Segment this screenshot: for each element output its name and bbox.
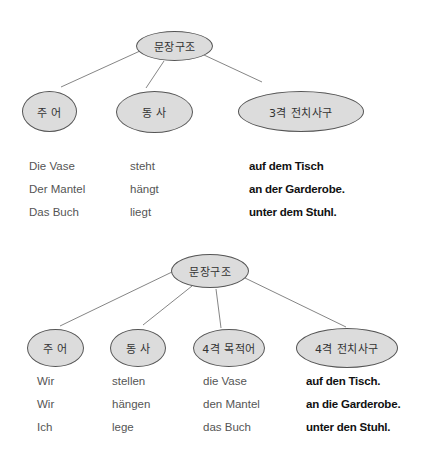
node-subject-2: 주 어 (27, 329, 84, 367)
d1-verb-3: liegt (130, 206, 151, 218)
d2-subject-3: Ich (37, 421, 52, 433)
d2-prep-1: auf den Tisch. (306, 375, 380, 387)
d2-prep-3: unter den Stuhl. (306, 421, 390, 433)
d1-prep-1: auf dem Tisch (249, 160, 324, 172)
d1-subject-1: Die Vase (29, 160, 75, 172)
node-verb-2: 동 사 (110, 329, 166, 367)
d1-prep-2: an der Garderobe. (249, 183, 345, 195)
d2-subject-2: Wir (37, 398, 54, 410)
d2-object-2: den Mantel (203, 398, 260, 410)
node-verb: 동 사 (116, 91, 193, 133)
d2-object-3: das Buch (203, 421, 251, 433)
node-subject: 주 어 (22, 91, 77, 132)
d1-verb-2: hängt (130, 183, 159, 195)
connector-lines (0, 0, 425, 461)
root-node-sentence-structure-2: 문장구조 (171, 254, 249, 288)
d1-subject-3: Das Buch (29, 206, 79, 218)
d1-verb-1: steht (130, 160, 155, 172)
d1-subject-2: Der Mantel (29, 183, 85, 195)
d2-prep-2: an die Garderobe. (306, 398, 400, 410)
d2-subject-1: Wir (37, 375, 54, 387)
node-accusative-object: 4격 목적어 (193, 329, 265, 367)
root-node-sentence-structure: 문장구조 (136, 31, 213, 61)
node-accusative-prep-phrase: 4격 전치사구 (296, 328, 398, 368)
d2-verb-3: lege (112, 421, 134, 433)
node-dative-prep-phrase: 3격 전치사구 (238, 91, 364, 132)
d2-object-1: die Vase (203, 375, 247, 387)
d1-prep-3: unter dem Stuhl. (249, 206, 337, 218)
d2-verb-1: stellen (112, 375, 145, 387)
d2-verb-2: hängen (112, 398, 150, 410)
